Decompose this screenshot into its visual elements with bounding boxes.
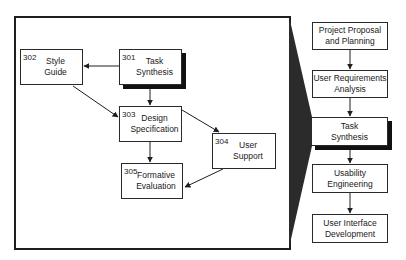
step-label-line1: User Interface xyxy=(323,218,376,229)
box-number: 304 xyxy=(215,137,228,146)
step-usability-engineering: Usability Engineering xyxy=(312,164,388,193)
step-label-line2: Engineering xyxy=(327,179,372,190)
step-label-line1: Project Proposal xyxy=(319,25,381,36)
box-label-line1: Design xyxy=(133,113,167,124)
box-number: 301 xyxy=(122,53,135,62)
box-303-design-specification: 303 Design Specification xyxy=(119,106,182,142)
arrow-303-to-304 xyxy=(182,110,219,132)
step-label-line2: Synthesis xyxy=(331,132,368,143)
step-label-line1: User Requirements xyxy=(313,73,386,84)
box-302-style-guide: 302 Style Guide xyxy=(20,49,83,85)
box-label-line2: Guide xyxy=(36,67,67,78)
step-label-line2: Analysis xyxy=(334,84,366,95)
box-label-line2: Evaluation xyxy=(128,181,176,192)
step-user-requirements: User Requirements Analysis xyxy=(312,70,388,98)
arrow-304-to-305 xyxy=(185,169,223,187)
box-number: 305 xyxy=(124,167,137,176)
step-project-proposal: Project Proposal and Planning xyxy=(312,22,388,50)
step-label-line1: Task xyxy=(341,121,358,132)
box-label-line2: Synthesis xyxy=(128,67,173,78)
step-label-line2: and Planning xyxy=(325,36,375,47)
box-301-task-synthesis: 301 Task Synthesis xyxy=(119,49,182,85)
box-label-line1: User xyxy=(231,140,257,151)
zoom-wedge xyxy=(289,16,312,248)
box-number: 302 xyxy=(23,53,36,62)
arrow-302-to-303 xyxy=(73,86,118,117)
box-304-user-support: 304 User Support xyxy=(212,133,276,169)
step-task-synthesis: Task Synthesis xyxy=(311,117,388,146)
step-label-line1: Usability xyxy=(334,168,366,179)
box-label-line2: Specification xyxy=(122,124,178,135)
box-label-line2: Support xyxy=(225,151,263,162)
step-user-interface-development: User Interface Development xyxy=(312,214,388,243)
box-305-formative-evaluation: 305 Formative Evaluation xyxy=(121,163,183,199)
step-label-line2: Development xyxy=(325,229,375,240)
box-number: 303 xyxy=(122,110,135,119)
box-label-line1: Style xyxy=(38,56,65,67)
box-label-line1: Task xyxy=(138,56,163,67)
